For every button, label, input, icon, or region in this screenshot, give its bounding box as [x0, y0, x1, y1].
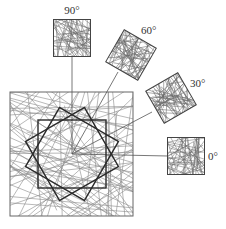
fiber-orientation-diagram: 90° 60° 30° 0°: [0, 0, 226, 229]
label-60: 60°: [141, 24, 156, 36]
label-90: 90°: [64, 4, 79, 16]
label-0: 0°: [208, 150, 218, 162]
label-30: 30°: [190, 77, 205, 89]
sample-windows: [21, 0, 226, 205]
main-fiber-network: [0, 0, 226, 229]
